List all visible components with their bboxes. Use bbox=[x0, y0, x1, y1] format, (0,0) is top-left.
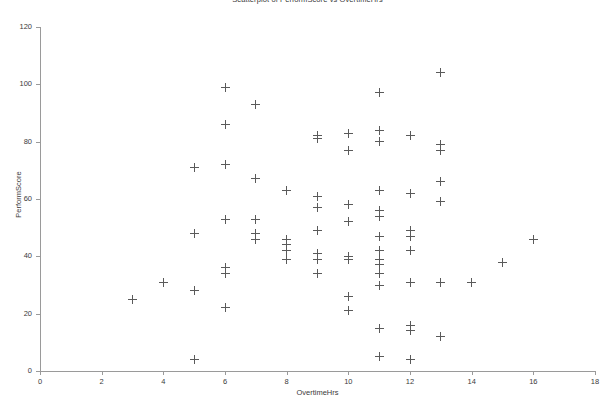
data-point bbox=[221, 263, 230, 272]
y-axis-tick bbox=[36, 142, 40, 143]
data-point bbox=[375, 246, 384, 255]
data-point bbox=[375, 260, 384, 269]
data-point bbox=[406, 321, 415, 330]
data-point bbox=[313, 131, 322, 140]
data-point bbox=[190, 355, 199, 364]
data-point bbox=[251, 100, 260, 109]
data-point bbox=[344, 217, 353, 226]
data-point bbox=[344, 252, 353, 261]
x-axis-tick bbox=[102, 371, 103, 375]
data-point bbox=[436, 177, 445, 186]
x-axis-tick bbox=[595, 371, 596, 375]
data-point bbox=[498, 258, 507, 267]
data-point bbox=[375, 126, 384, 135]
data-point bbox=[251, 235, 260, 244]
data-point bbox=[313, 226, 322, 235]
x-axis-tick bbox=[410, 371, 411, 375]
y-axis-tick bbox=[36, 84, 40, 85]
data-point bbox=[406, 355, 415, 364]
data-point bbox=[436, 146, 445, 155]
data-point bbox=[251, 174, 260, 183]
data-point bbox=[375, 255, 384, 264]
scatter-chart: Scatterplot of PerformScore vs OvertimeH… bbox=[0, 0, 615, 409]
data-point bbox=[406, 189, 415, 198]
data-point bbox=[221, 120, 230, 129]
data-point bbox=[375, 324, 384, 333]
x-axis-tick-label: 8 bbox=[267, 377, 307, 386]
y-axis-tick-label: 100 bbox=[0, 79, 32, 88]
x-axis-tick-label: 12 bbox=[390, 377, 430, 386]
y-axis-tick-label: 0 bbox=[0, 366, 32, 375]
data-point bbox=[375, 281, 384, 290]
data-point bbox=[221, 215, 230, 224]
data-point bbox=[406, 226, 415, 235]
data-point bbox=[190, 163, 199, 172]
x-axis-tick bbox=[348, 371, 349, 375]
data-point bbox=[344, 200, 353, 209]
chart-title: Scatterplot of PerformScore vs OvertimeH… bbox=[0, 0, 615, 4]
x-axis-tick-label: 4 bbox=[143, 377, 183, 386]
data-point bbox=[344, 146, 353, 155]
data-point bbox=[375, 186, 384, 195]
data-point bbox=[436, 68, 445, 77]
data-point bbox=[529, 235, 538, 244]
data-point bbox=[221, 83, 230, 92]
x-axis-tick-label: 6 bbox=[205, 377, 245, 386]
data-point bbox=[128, 295, 137, 304]
x-axis-tick bbox=[40, 371, 41, 375]
data-point bbox=[251, 215, 260, 224]
data-point bbox=[375, 206, 384, 215]
data-point bbox=[282, 240, 291, 249]
y-axis-title: PerformScore bbox=[14, 155, 23, 235]
x-axis-tick bbox=[287, 371, 288, 375]
data-point bbox=[282, 235, 291, 244]
data-point bbox=[313, 192, 322, 201]
x-axis-tick-label: 16 bbox=[513, 377, 553, 386]
data-point bbox=[375, 88, 384, 97]
x-axis-line bbox=[40, 371, 595, 372]
data-point bbox=[344, 255, 353, 264]
x-axis-tick-label: 0 bbox=[20, 377, 60, 386]
x-axis-title: OvertimeHrs bbox=[40, 388, 595, 397]
x-axis-tick bbox=[472, 371, 473, 375]
data-point bbox=[436, 197, 445, 206]
data-point bbox=[282, 255, 291, 264]
y-axis-tick bbox=[36, 256, 40, 257]
y-axis-tick bbox=[36, 371, 40, 372]
data-point bbox=[313, 255, 322, 264]
data-point bbox=[406, 278, 415, 287]
data-point bbox=[190, 229, 199, 238]
data-point bbox=[436, 278, 445, 287]
data-point bbox=[313, 249, 322, 258]
data-point bbox=[375, 352, 384, 361]
data-point bbox=[375, 232, 384, 241]
x-axis-tick-label: 2 bbox=[82, 377, 122, 386]
data-point bbox=[375, 137, 384, 146]
data-point bbox=[221, 160, 230, 169]
data-point bbox=[406, 246, 415, 255]
x-axis-tick-label: 14 bbox=[452, 377, 492, 386]
data-point bbox=[282, 246, 291, 255]
y-axis-tick bbox=[36, 314, 40, 315]
y-axis-line bbox=[40, 27, 41, 371]
data-point bbox=[251, 229, 260, 238]
data-point bbox=[282, 186, 291, 195]
y-axis-tick-label: 80 bbox=[0, 137, 32, 146]
y-axis-tick-label: 120 bbox=[0, 22, 32, 31]
data-point bbox=[313, 269, 322, 278]
y-axis-tick bbox=[36, 27, 40, 28]
plot-area bbox=[40, 27, 595, 371]
x-axis-tick-label: 10 bbox=[328, 377, 368, 386]
x-axis-tick-label: 18 bbox=[575, 377, 615, 386]
data-point bbox=[221, 303, 230, 312]
data-point bbox=[406, 326, 415, 335]
data-point bbox=[436, 332, 445, 341]
data-point bbox=[344, 129, 353, 138]
data-point bbox=[375, 212, 384, 221]
data-point bbox=[313, 134, 322, 143]
data-point bbox=[344, 306, 353, 315]
data-point bbox=[190, 286, 199, 295]
data-point bbox=[406, 131, 415, 140]
data-point bbox=[344, 292, 353, 301]
data-point bbox=[375, 269, 384, 278]
